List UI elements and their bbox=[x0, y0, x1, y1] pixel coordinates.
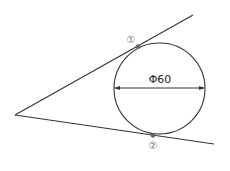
lower-tangent-line bbox=[15, 115, 214, 144]
diameter-arrow-right-icon bbox=[199, 86, 205, 90]
upper-tangent-line bbox=[15, 15, 193, 115]
tangent-point-1-label: ① bbox=[127, 34, 136, 45]
tangent-point-2 bbox=[151, 133, 155, 137]
tangent-circle-diagram: Φ60 ① ② bbox=[0, 0, 230, 171]
tangent-point-2-label: ② bbox=[149, 140, 158, 151]
diameter-arrow-left-icon bbox=[114, 86, 120, 90]
diameter-label: Φ60 bbox=[149, 73, 172, 86]
tangent-point-1 bbox=[136, 44, 140, 48]
diagram-svg: Φ60 ① ② bbox=[0, 0, 230, 171]
